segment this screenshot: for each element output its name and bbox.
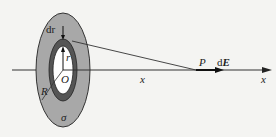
label-x-axis: x <box>261 74 266 85</box>
figure: dr r O R σ x P dE x <box>0 0 276 137</box>
label-P: P <box>199 57 206 68</box>
label-x-distance: x <box>140 74 145 85</box>
label-dE: dE <box>217 57 230 68</box>
ring-to-P-line <box>72 41 196 70</box>
label-dr: dr <box>46 24 55 35</box>
label-O: O <box>61 74 69 85</box>
label-R: R <box>41 86 48 97</box>
label-dE-E: E <box>223 56 230 68</box>
diagram-svg <box>0 0 276 137</box>
label-r: r <box>66 52 70 63</box>
label-sigma: σ <box>61 112 66 123</box>
